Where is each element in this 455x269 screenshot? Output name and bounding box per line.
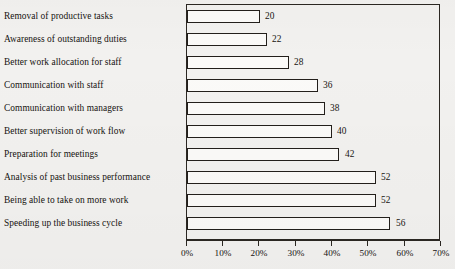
x-axis-tick <box>186 241 187 246</box>
bar <box>187 125 332 138</box>
x-axis-tick-label: 70% <box>433 248 450 259</box>
bar-value-label: 52 <box>381 172 390 183</box>
x-axis-tick <box>440 241 441 246</box>
x-axis-tick <box>367 241 368 246</box>
bar <box>187 148 339 161</box>
category-label: Awareness of outstanding duties <box>4 34 174 45</box>
category-label: Communication with staff <box>4 80 174 91</box>
category-label: Communication with managers <box>4 103 174 114</box>
category-axis-labels: Removal of productive tasks Awareness of… <box>0 0 180 240</box>
category-label: Speeding up the business cycle <box>4 218 174 229</box>
category-label: Better supervision of work flow <box>4 126 174 137</box>
bar <box>187 10 260 23</box>
bar <box>187 79 318 92</box>
x-axis-line <box>186 240 440 241</box>
bar-value-label: 56 <box>396 218 405 229</box>
category-label: Better work allocation for staff <box>4 57 174 68</box>
bar-value-label: 52 <box>381 195 390 206</box>
x-axis-tick <box>404 241 405 246</box>
x-axis-tick-label: 60% <box>397 248 414 259</box>
category-label: Preparation for meetings <box>4 149 174 160</box>
bar <box>187 102 325 115</box>
x-axis-tick <box>222 241 223 246</box>
x-axis-tick-label: 30% <box>288 248 305 259</box>
category-label: Removal of productive tasks <box>4 11 174 22</box>
x-axis-tick-label: 50% <box>360 248 377 259</box>
bar-value-label: 20 <box>265 11 274 22</box>
bar-value-label: 42 <box>345 149 354 160</box>
x-axis-tick-label: 20% <box>251 248 268 259</box>
category-label: Being able to take on more work <box>4 195 174 206</box>
x-axis-tick-label: 40% <box>324 248 341 259</box>
bar-value-label: 40 <box>337 126 346 137</box>
bar-value-label: 36 <box>323 80 332 91</box>
bar <box>187 56 289 69</box>
category-label: Analysis of past business performance <box>4 172 174 183</box>
x-axis-tick-label: 0% <box>181 248 193 259</box>
x-axis-tick-label: 10% <box>215 248 232 259</box>
bar <box>187 33 267 46</box>
bar <box>187 194 376 207</box>
bar <box>187 217 390 230</box>
bar-value-label: 22 <box>272 34 281 45</box>
x-axis-tick <box>258 241 259 246</box>
x-axis-tick <box>295 241 296 246</box>
bar-value-label: 28 <box>294 57 303 68</box>
plot-area: 20 22 28 36 38 40 42 52 52 56 <box>186 4 440 240</box>
x-axis-tick <box>331 241 332 246</box>
bar-value-label: 38 <box>330 103 339 114</box>
horizontal-bar-chart: Removal of productive tasks Awareness of… <box>0 0 455 269</box>
bar <box>187 171 376 184</box>
